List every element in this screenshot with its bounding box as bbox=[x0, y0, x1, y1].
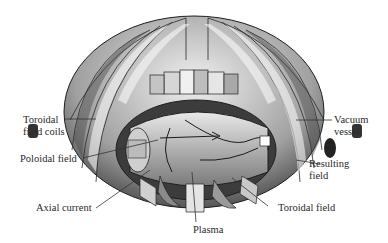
label-line: Vacuum bbox=[334, 114, 368, 126]
label-line: field bbox=[309, 170, 349, 182]
label-poloidal-field: Poloidal field bbox=[20, 153, 77, 165]
label-line: vessel bbox=[334, 126, 368, 138]
label-toroidal-field: Toroidal field bbox=[278, 202, 335, 214]
label-line: Resulting bbox=[309, 158, 349, 170]
label-vacuum-vessel: Vacuum vessel bbox=[334, 114, 368, 138]
label-plasma: Plasma bbox=[193, 224, 223, 236]
label-axial-current: Axial current bbox=[36, 202, 92, 214]
tokamak-diagram: Toroidal field coils Poloidal field Axia… bbox=[0, 0, 388, 243]
label-line: field coils bbox=[23, 126, 65, 138]
label-line: Toroidal bbox=[23, 114, 65, 126]
label-toroidal-field-coils: Toroidal field coils bbox=[23, 114, 65, 138]
label-resulting-field: Resulting field bbox=[309, 158, 349, 182]
